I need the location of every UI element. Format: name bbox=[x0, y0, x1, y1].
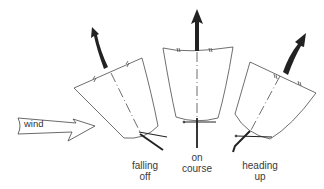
label-falling-off-line1: falling bbox=[125, 160, 165, 171]
heading-arrow-heading-up-icon bbox=[283, 33, 306, 75]
label-falling-off-line2: off bbox=[125, 171, 165, 182]
heading-arrow-on-course-icon bbox=[191, 9, 203, 51]
label-heading-up-line2: up bbox=[235, 171, 285, 182]
label-on-course-line1: on bbox=[177, 152, 217, 163]
label-heading-up: heading up bbox=[235, 160, 285, 182]
boat-falling-off bbox=[74, 58, 167, 150]
label-heading-up-line1: heading bbox=[235, 160, 285, 171]
label-on-course-line2: course bbox=[177, 163, 217, 174]
label-falling-off: falling off bbox=[125, 160, 165, 182]
boat-heading-up bbox=[233, 62, 316, 152]
boat-on-course bbox=[163, 47, 233, 148]
wind-label: wind bbox=[24, 118, 44, 129]
label-on-course: on course bbox=[177, 152, 217, 174]
heading-arrow-falling-off-icon bbox=[91, 27, 108, 69]
